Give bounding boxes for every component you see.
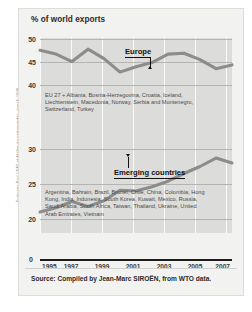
ytick-label-25: 25 — [28, 181, 36, 188]
note-emerging-countries: Argentina, Bahrain, Brazil, Brunei, Chil… — [45, 189, 205, 218]
plot-area: 50 45 40 30 25 20 0 1995 1997 1999 — [40, 37, 232, 259]
source-note: Source: Compiled by Jean-Marc SIROËN, fr… — [31, 275, 211, 282]
ytick-label-0: 0 — [29, 256, 33, 263]
series-emerging-countries — [40, 37, 232, 259]
ytick-label-40: 40 — [28, 82, 36, 89]
note-europe-countries: EU 27 + Albania, Bosnia-Herzegovina, Cro… — [45, 92, 205, 114]
annotation-europe-leader-tip — [148, 66, 152, 69]
annotation-emerging-leader — [128, 157, 129, 168]
annotation-europe: Europe — [125, 47, 151, 58]
chart-title: % of world exports — [31, 15, 105, 24]
source-separator — [25, 268, 237, 269]
annotation-emerging-leader-tip — [126, 154, 130, 157]
x-axis-line — [40, 259, 232, 261]
ytick-label-30: 30 — [28, 146, 36, 153]
chart-figure: Sciences Po / CERI et Atelier de cartogr… — [0, 0, 252, 312]
ytick-label-20: 20 — [28, 216, 36, 223]
ytick-label-50: 50 — [28, 36, 36, 43]
annotation-emerging-countries: Emerging countries — [114, 168, 185, 179]
ytick-label-45: 45 — [28, 59, 36, 66]
